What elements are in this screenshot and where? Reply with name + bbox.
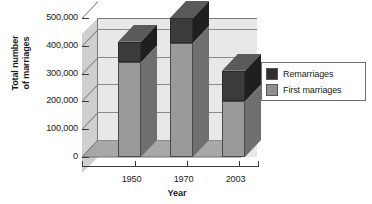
x-axis-tick [82,161,83,167]
bar-chart: Total number of marriages 500,000400,000… [0,0,372,204]
x-axis-tick-label: 1970 [164,174,204,184]
light-swatch-icon [266,84,278,96]
legend: Remarriages First marriages [261,62,366,101]
x-axis-tick [258,161,259,167]
legend-item-label: Remarriages [283,69,333,79]
legend-item: First marriages [266,82,361,98]
x-axis-tick-label: 2003 [216,174,256,184]
x-axis-tick [135,161,136,167]
bar-segment-first-marriages [222,101,245,157]
x-axis-title: Year [97,188,257,198]
legend-item: Remarriages [266,66,361,82]
dark-swatch-icon [266,68,278,80]
x-axis-tick [187,161,188,167]
x-axis-tick-label: 1950 [112,174,152,184]
bar-segment-remarriages [222,71,245,102]
legend-item-label: First marriages [283,85,342,95]
x-axis-line [82,166,258,167]
x-axis-tick [239,161,240,167]
